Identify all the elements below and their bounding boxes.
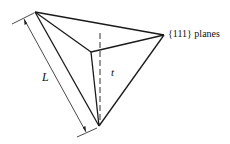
dimension-tick-bottom xyxy=(77,128,97,137)
dimension-tick-top xyxy=(12,13,34,24)
dimension-line-L xyxy=(24,19,86,132)
planes-label: {111} planes xyxy=(168,28,220,39)
edge-right-bottom xyxy=(99,35,164,126)
length-label: L xyxy=(42,70,49,85)
thickness-label: t xyxy=(111,66,114,78)
pyramid-diagram xyxy=(0,0,230,144)
edge-top-bottom xyxy=(35,12,99,126)
edge-top-right xyxy=(35,12,164,35)
edge-top-inner xyxy=(35,12,91,52)
